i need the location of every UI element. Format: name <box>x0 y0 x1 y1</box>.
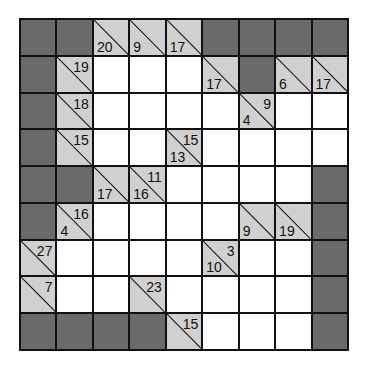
down-clue: 9 <box>243 224 251 238</box>
across-clue: 19 <box>73 60 89 74</box>
entry-cell[interactable] <box>167 57 201 92</box>
down-clue: 20 <box>97 40 113 54</box>
down-clue: 17 <box>206 77 222 91</box>
entry-cell[interactable] <box>130 94 164 129</box>
entry-cell[interactable] <box>203 130 237 165</box>
clue-cell: 49 <box>240 94 274 129</box>
down-clue: 17 <box>316 77 332 91</box>
block-cell <box>203 20 237 55</box>
clue-cell: 17 <box>203 57 237 92</box>
clue-cell: 20 <box>94 20 128 55</box>
across-clue: 18 <box>73 97 89 111</box>
entry-cell[interactable] <box>130 57 164 92</box>
entry-cell[interactable] <box>94 57 128 92</box>
entry-cell[interactable] <box>94 241 128 276</box>
down-clue: 19 <box>279 224 295 238</box>
block-cell <box>313 204 347 239</box>
clue-cell: 23 <box>130 277 164 312</box>
block-cell <box>130 314 164 349</box>
clue-cell: 27 <box>21 241 55 276</box>
block-cell <box>57 314 91 349</box>
block-cell <box>313 20 347 55</box>
block-cell <box>240 57 274 92</box>
entry-cell[interactable] <box>276 241 310 276</box>
down-clue: 16 <box>133 187 149 201</box>
entry-cell[interactable] <box>94 130 128 165</box>
clue-cell: 7 <box>21 277 55 312</box>
entry-cell[interactable] <box>203 167 237 202</box>
block-cell <box>21 204 55 239</box>
entry-cell[interactable] <box>240 167 274 202</box>
across-clue: 11 <box>147 170 162 184</box>
block-cell <box>94 314 128 349</box>
entry-cell[interactable] <box>203 277 237 312</box>
entry-cell[interactable] <box>276 94 310 129</box>
clue-cell: 18 <box>57 94 91 129</box>
entry-cell[interactable] <box>203 314 237 349</box>
entry-cell[interactable] <box>167 277 201 312</box>
entry-cell[interactable] <box>240 277 274 312</box>
clue-cell: 15 <box>167 314 201 349</box>
across-clue: 15 <box>183 317 199 331</box>
across-clue: 23 <box>146 280 162 294</box>
entry-cell[interactable] <box>167 167 201 202</box>
entry-cell[interactable] <box>94 204 128 239</box>
down-clue: 9 <box>133 40 141 54</box>
block-cell <box>276 20 310 55</box>
clue-cell: 19 <box>57 57 91 92</box>
across-clue: 15 <box>73 133 89 147</box>
entry-cell[interactable] <box>130 241 164 276</box>
entry-cell[interactable] <box>240 314 274 349</box>
clue-cell: 416 <box>57 204 91 239</box>
across-clue: 7 <box>45 280 53 294</box>
clue-cell: 1611 <box>130 167 164 202</box>
block-cell <box>313 314 347 349</box>
clue-cell: 1315 <box>167 130 201 165</box>
across-clue: 9 <box>263 97 271 111</box>
clue-cell: 9 <box>130 20 164 55</box>
down-clue: 17 <box>170 40 186 54</box>
entry-cell[interactable] <box>240 241 274 276</box>
across-clue: 16 <box>73 207 89 221</box>
clue-cell: 19 <box>276 204 310 239</box>
entry-cell[interactable] <box>203 204 237 239</box>
entry-cell[interactable] <box>313 130 347 165</box>
down-clue: 4 <box>60 224 68 238</box>
block-cell <box>21 130 55 165</box>
clue-cell: 6 <box>276 57 310 92</box>
entry-cell[interactable] <box>313 94 347 129</box>
entry-cell[interactable] <box>240 130 274 165</box>
block-cell <box>313 167 347 202</box>
entry-cell[interactable] <box>276 167 310 202</box>
down-clue: 13 <box>170 150 186 164</box>
clue-cell: 17 <box>167 20 201 55</box>
block-cell <box>240 20 274 55</box>
down-clue: 10 <box>206 260 222 274</box>
block-cell <box>57 20 91 55</box>
block-cell <box>21 94 55 129</box>
entry-cell[interactable] <box>276 130 310 165</box>
block-cell <box>21 167 55 202</box>
down-clue: 6 <box>279 77 287 91</box>
clue-cell: 17 <box>313 57 347 92</box>
entry-cell[interactable] <box>94 94 128 129</box>
across-clue: 15 <box>183 133 199 147</box>
entry-cell[interactable] <box>57 241 91 276</box>
block-cell <box>313 241 347 276</box>
entry-cell[interactable] <box>167 204 201 239</box>
entry-cell[interactable] <box>203 94 237 129</box>
kakuro-board: 2091719176171849151315171611416919271037… <box>19 18 349 351</box>
across-clue: 27 <box>37 244 53 258</box>
entry-cell[interactable] <box>167 94 201 129</box>
across-clue: 3 <box>227 244 235 258</box>
entry-cell[interactable] <box>94 277 128 312</box>
entry-cell[interactable] <box>130 130 164 165</box>
entry-cell[interactable] <box>276 314 310 349</box>
clue-cell: 103 <box>203 241 237 276</box>
entry-cell[interactable] <box>130 204 164 239</box>
entry-cell[interactable] <box>57 277 91 312</box>
entry-cell[interactable] <box>276 277 310 312</box>
entry-cell[interactable] <box>167 241 201 276</box>
block-cell <box>313 277 347 312</box>
down-clue: 17 <box>97 187 113 201</box>
